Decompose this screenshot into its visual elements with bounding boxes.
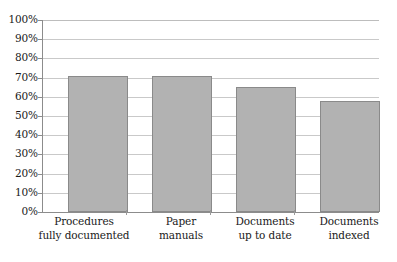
y-axis-tick-label: 20% [0,168,38,179]
x-axis-label-line: Procedures [35,215,133,229]
y-axis-tick-label: 90% [0,33,38,44]
x-axis-category-label: Documents indexed [299,215,397,242]
bar-documents-up-to-date[interactable] [236,87,296,212]
x-axis: Procedures fully documented Paper manual… [42,215,378,260]
y-axis-tick-label: 50% [0,110,38,121]
bar-series [43,20,379,212]
bar-paper-manuals[interactable] [152,76,212,212]
y-axis-tick-label: 30% [0,148,38,159]
y-axis-tick-label: 100% [0,14,38,25]
y-axis-tick-label: 70% [0,72,38,83]
y-axis-tick-label: 0% [0,206,38,217]
x-axis-label-line: fully documented [35,229,133,243]
x-axis-category-label: Procedures fully documented [35,215,133,242]
x-axis-label-line: indexed [299,229,397,243]
bar-documents-indexed[interactable] [320,101,380,212]
bar-chart: 100% 90% 80% 70% 60% 50% 40% 30% 20% 10%… [0,0,397,262]
y-axis: 100% 90% 80% 70% 60% 50% 40% 30% 20% 10%… [0,0,38,262]
x-axis-label-line: Documents [299,215,397,229]
plot-area [42,20,379,213]
y-axis-tick-label: 10% [0,187,38,198]
bar-procedures-fully-documented[interactable] [68,76,128,212]
y-axis-tick-label: 60% [0,91,38,102]
y-axis-tick-label: 80% [0,52,38,63]
y-axis-tick-label: 40% [0,129,38,140]
